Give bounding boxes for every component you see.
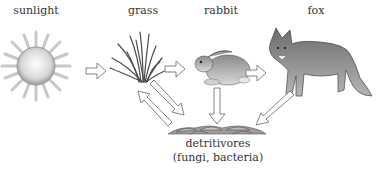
arrow-sunlight-to-grass: [86, 63, 106, 79]
sun-icon: [2, 32, 70, 100]
arrow-rabbit-to-detritivores: [209, 88, 225, 124]
grass-icon: [110, 32, 168, 82]
label-detritivores: detritivores: [176, 137, 260, 150]
arrow-fox-to-detritivores: [256, 91, 294, 125]
label-rabbit: rabbit: [196, 4, 246, 17]
fox-icon: [270, 28, 373, 96]
rabbit-icon: [195, 51, 250, 85]
label-grass: grass: [118, 4, 168, 17]
label-fox: fox: [296, 4, 336, 17]
arrow-grass-to-rabbit: [165, 61, 185, 77]
leaf-litter-icon: [168, 126, 266, 134]
label-sunlight: sunlight: [8, 4, 64, 17]
label-detritivores-examples: (fungi, bacteria): [166, 151, 270, 164]
